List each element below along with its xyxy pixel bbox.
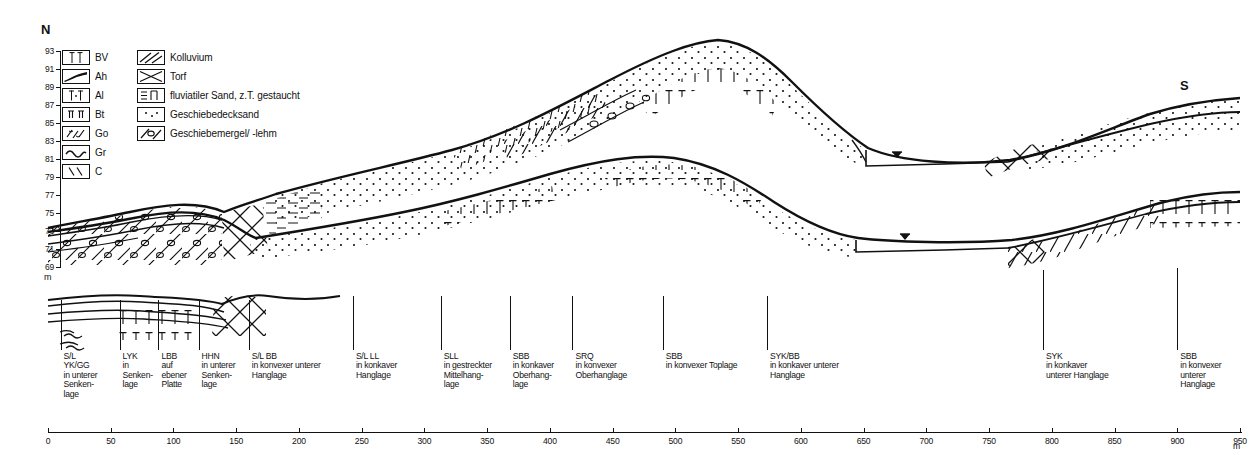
x-axis-tick (1240, 428, 1241, 432)
x-axis-tick (675, 428, 676, 432)
x-axis-tick (550, 428, 551, 432)
x-axis-tick (864, 428, 865, 432)
x-axis-tick-label: 750 (982, 436, 996, 446)
x-axis-tick-label: 700 (919, 436, 933, 446)
x-axis-tick (111, 428, 112, 432)
x-axis-tick-label: 50 (106, 436, 115, 446)
x-axis-tick-label: 800 (1045, 436, 1059, 446)
x-axis-tick-label: 0 (46, 436, 51, 446)
x-axis-tick (424, 428, 425, 432)
x-axis-tick (1052, 428, 1053, 432)
x-axis-line (48, 432, 1242, 433)
x-axis-tick-label: 550 (731, 436, 745, 446)
x-axis-tick (738, 428, 739, 432)
x-axis-tick (613, 428, 614, 432)
x-axis-tick-label: 650 (857, 436, 871, 446)
x-axis-tick (1177, 428, 1178, 432)
cross-section-figure: N S 93918987858381797775737169 m BV Ah (0, 0, 1255, 473)
x-axis-tick-label: 900 (1170, 436, 1184, 446)
x-axis-tick (236, 428, 237, 432)
x-axis-tick (801, 428, 802, 432)
x-axis-tick (48, 428, 49, 432)
x-axis-tick (926, 428, 927, 432)
x-axis-tick-label: 250 (355, 436, 369, 446)
x-axis-tick-label: 600 (794, 436, 808, 446)
x-axis-tick-label: 450 (606, 436, 620, 446)
x-axis-tick-label: 150 (229, 436, 243, 446)
x-axis-tick-label: 300 (418, 436, 432, 446)
x-axis-tick-label: 500 (668, 436, 682, 446)
x-axis-tick-label: 350 (480, 436, 494, 446)
x-axis-tick-label: 400 (543, 436, 557, 446)
x-axis: 0501001502002503003504004505005506006507… (0, 0, 1255, 473)
x-axis-tick-label: 850 (1108, 436, 1122, 446)
x-axis-tick (1115, 428, 1116, 432)
x-axis-tick-label: 100 (167, 436, 181, 446)
x-axis-tick (487, 428, 488, 432)
x-axis-tick (299, 428, 300, 432)
x-axis-tick (173, 428, 174, 432)
x-axis-tick (989, 428, 990, 432)
x-axis-tick (362, 428, 363, 432)
x-axis-unit-label: m (1233, 441, 1240, 451)
x-axis-tick-label: 200 (292, 436, 306, 446)
